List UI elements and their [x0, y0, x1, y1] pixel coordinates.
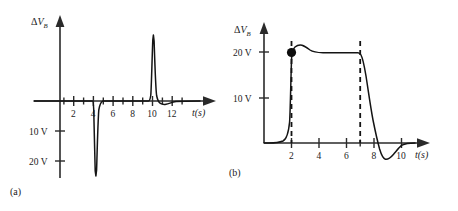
panel-a-x-axis-arrowhead: [203, 96, 216, 106]
panel-a-xtick-label-10: 10: [147, 109, 157, 119]
panel-a-xtick-label-8: 8: [130, 109, 135, 119]
panel-b-y-axis-arrowhead: [260, 22, 269, 34]
panel-a-ytick-label-10V: 10 V: [29, 127, 48, 137]
panel-a-y-axis-label: ΔVB: [31, 16, 48, 29]
panel-a-xtick-label-12: 12: [167, 109, 177, 119]
figure-root: ΔVB 2 4 6 8 10 12 t(s) 10 V 20 V (a): [0, 0, 458, 211]
panel-b-point-marker: [287, 48, 296, 57]
panel-a-plot: ΔVB 2 4 6 8 10 12 t(s) 10 V 20 V (a): [0, 0, 229, 211]
panel-b-xtick-label-4: 4: [316, 151, 321, 161]
panel-b-xtick-label-2: 2: [289, 151, 294, 161]
panel-a-y-axis-arrowhead: [56, 15, 65, 27]
panel-b-ytick-label-10V: 10 V: [233, 94, 252, 104]
panel-b: ΔVB 20 V 10 V 2 4 6 8 10 t(s) (b): [229, 0, 458, 211]
panel-a-x-axis-label: t(s): [192, 107, 206, 119]
panel-b-xtick-label-6: 6: [344, 151, 349, 161]
panel-b-x-axis-arrowhead: [417, 138, 430, 148]
panel-b-xtick-label-8: 8: [371, 151, 376, 161]
panel-a-xtick-label-6: 6: [111, 109, 116, 119]
panel-a-ytick-label-20V: 20 V: [29, 157, 48, 167]
panel-a-caption: (a): [10, 186, 21, 198]
panel-a-xtick-label-2: 2: [71, 109, 76, 119]
panel-a-xtick-label-4: 4: [91, 109, 96, 119]
panel-a: ΔVB 2 4 6 8 10 12 t(s) 10 V 20 V (a): [0, 0, 229, 211]
panel-b-plot: ΔVB 20 V 10 V 2 4 6 8 10 t(s) (b): [229, 0, 458, 211]
panel-a-curve: [34, 35, 200, 176]
panel-b-curve: [264, 45, 415, 159]
panel-b-x-axis-label: t(s): [415, 149, 429, 161]
panel-b-xtick-label-10: 10: [396, 151, 406, 161]
panel-b-y-axis-label: ΔVB: [234, 24, 251, 37]
panel-b-ytick-label-20V: 20 V: [233, 48, 252, 58]
panel-b-caption: (b): [229, 167, 241, 179]
